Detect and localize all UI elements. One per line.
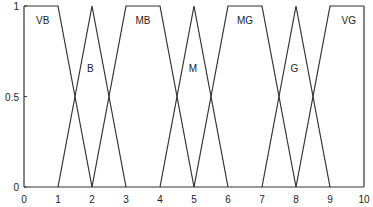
x-tick-label: 3 bbox=[123, 194, 129, 205]
membership-function-chart: VBBMBMMGGVG 01234567891000.51 bbox=[0, 0, 373, 207]
x-tick-label: 4 bbox=[157, 194, 163, 205]
x-tick-label: 7 bbox=[259, 194, 265, 205]
label-m: M bbox=[189, 63, 197, 74]
x-tick-label: 8 bbox=[293, 194, 299, 205]
y-tick-label: 0.5 bbox=[5, 92, 19, 103]
label-g: G bbox=[290, 63, 298, 74]
label-b: B bbox=[87, 63, 94, 74]
x-tick-label: 10 bbox=[358, 194, 370, 205]
x-tick-label: 5 bbox=[191, 194, 197, 205]
label-vg: VG bbox=[341, 15, 356, 26]
x-tick-label: 6 bbox=[225, 194, 231, 205]
x-tick-label: 9 bbox=[327, 194, 333, 205]
label-mb: MB bbox=[136, 15, 151, 26]
label-mg: MG bbox=[237, 15, 253, 26]
series-lines bbox=[24, 6, 364, 187]
y-tick-label: 1 bbox=[13, 1, 19, 12]
series-mg bbox=[194, 6, 296, 187]
series-b bbox=[58, 6, 126, 187]
label-vb: VB bbox=[36, 15, 50, 26]
series-vb bbox=[24, 6, 92, 187]
y-tick-label: 0 bbox=[13, 182, 19, 193]
x-tick-label: 1 bbox=[55, 194, 61, 205]
series-g bbox=[262, 6, 330, 187]
series-m bbox=[160, 6, 228, 187]
x-tick-label: 0 bbox=[21, 194, 27, 205]
series-vg bbox=[296, 6, 364, 187]
series-labels: VBBMBMMGGVG bbox=[36, 15, 356, 73]
x-tick-label: 2 bbox=[89, 194, 95, 205]
series-mb bbox=[92, 6, 194, 187]
